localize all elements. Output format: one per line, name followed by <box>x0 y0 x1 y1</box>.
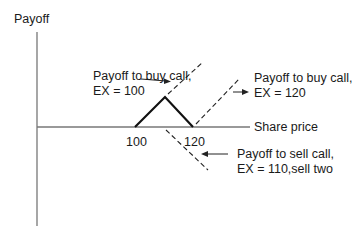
x-axis-label: Share price <box>254 120 318 135</box>
annotation-line1: Payoff to buy call, <box>254 71 352 86</box>
arrow-head-icon <box>201 151 208 157</box>
annotation-line2: EX = 120 <box>254 86 352 101</box>
butterfly-spread-diagram <box>0 0 362 234</box>
annotation-line1: Payoff to sell call, <box>237 147 334 162</box>
y-axis-label: Payoff <box>14 12 49 27</box>
annotation-buy-call-100: Payoff to buy call, EX = 100 <box>93 69 191 99</box>
annotation-line2: EX = 110,sell two <box>237 162 334 177</box>
tick-label-100: 100 <box>126 135 147 150</box>
annotation-sell-call-110: Payoff to sell call, EX = 110,sell two <box>237 147 334 177</box>
annotation-line1: Payoff to buy call, <box>93 69 191 84</box>
annotation-line2: EX = 100 <box>93 84 191 99</box>
annotation-buy-call-120: Payoff to buy call, EX = 120 <box>254 71 352 101</box>
butterfly-payoff-line <box>135 97 193 127</box>
arrow-head-icon <box>242 89 249 95</box>
tick-label-120: 120 <box>184 135 205 150</box>
buy-call-120-dashed-line <box>196 78 240 124</box>
